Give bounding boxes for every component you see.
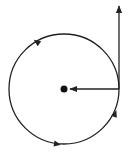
direction-arrowhead-icon [32, 37, 41, 46]
center-point [61, 86, 68, 93]
circular-motion-diagram [0, 0, 129, 158]
